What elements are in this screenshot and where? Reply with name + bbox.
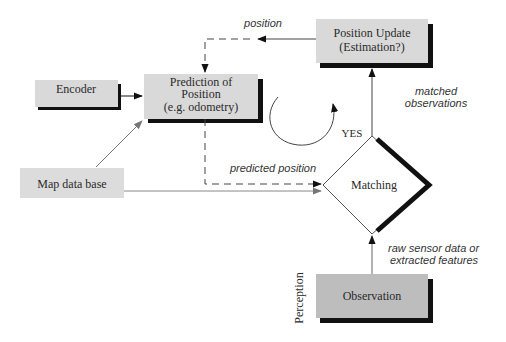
- map-database-label: Map data base: [37, 177, 106, 191]
- matching-diamond: Matching: [323, 136, 429, 234]
- prediction-label-2: Position: [181, 87, 220, 101]
- map-database-box: Map data base: [20, 168, 124, 198]
- raw-sensor-label-1: raw sensor data or: [388, 242, 480, 254]
- position-update-label-2: (Estimation?): [339, 40, 404, 54]
- encoder-label: Encoder: [56, 82, 96, 96]
- perception-label: Perception: [292, 272, 306, 323]
- observation-label: Observation: [343, 289, 402, 303]
- position-update-label-1: Position Update: [334, 26, 411, 40]
- encoder-box: Encoder: [35, 80, 121, 110]
- position-edge-label: position: [243, 17, 282, 29]
- predicted-position-dashed-arrow: [205, 119, 321, 184]
- position-feedback-dashed-arrow: [205, 39, 250, 72]
- prediction-label-3: (e.g. odometry): [164, 100, 238, 114]
- cycle-arrow-icon: [270, 97, 334, 145]
- matched-observations-label-2: observations: [405, 97, 468, 109]
- matched-observations-label-1: matched: [415, 85, 458, 97]
- map-to-prediction-arrow: [96, 121, 142, 167]
- matching-label: Matching: [351, 178, 397, 192]
- position-update-box: Position Update (Estimation?): [316, 19, 433, 68]
- yes-label: YES: [342, 127, 363, 139]
- raw-sensor-label-2: extracted features: [390, 254, 479, 266]
- observation-box: Observation: [316, 274, 433, 323]
- prediction-box: Prediction of Position (e.g. odometry): [144, 74, 263, 123]
- predicted-position-edge-label: predicted position: [229, 162, 316, 174]
- localization-flow-diagram: Position Update (Estimation?) Prediction…: [0, 0, 506, 342]
